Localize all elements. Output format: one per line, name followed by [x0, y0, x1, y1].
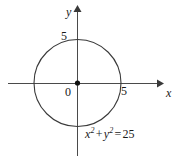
- equation-plus-operator: +: [95, 127, 104, 141]
- circle-graph-figure: y x 5 5 0 x2+y2=25: [0, 0, 182, 162]
- y-axis-tick-label-5: 5: [61, 30, 67, 42]
- x-axis-label: x: [166, 87, 171, 99]
- equation-value: 25: [122, 127, 134, 141]
- y-axis-label: y: [66, 6, 71, 18]
- x-axis-arrowhead: [157, 80, 164, 88]
- origin-point-marker: [75, 80, 80, 85]
- x-axis-tick-label-5: 5: [121, 85, 127, 97]
- y-axis-arrowhead: [74, 5, 82, 12]
- equation-annotation: x2+y2=25: [85, 128, 135, 140]
- origin-label: 0: [65, 86, 71, 98]
